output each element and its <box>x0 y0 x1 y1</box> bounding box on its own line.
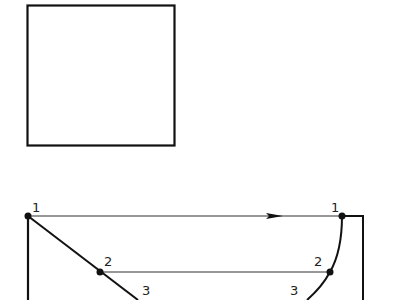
label-left-2: 2 <box>104 254 112 269</box>
diagram-canvas: 1 2 3 1 2 3 <box>0 0 395 300</box>
point-right-2 <box>327 269 334 276</box>
label-left-3: 3 <box>142 283 150 298</box>
label-right-2: 2 <box>314 254 322 269</box>
point-left-2 <box>97 269 104 276</box>
label-left-1: 1 <box>32 200 40 215</box>
point-right-1 <box>339 213 346 220</box>
point-left-1 <box>25 213 32 220</box>
label-right-3: 3 <box>290 283 298 298</box>
diagonal-edge <box>28 216 138 300</box>
right-curve <box>307 216 342 300</box>
label-right-1: 1 <box>331 200 339 215</box>
square <box>28 6 175 146</box>
right-box-edge <box>342 216 363 300</box>
